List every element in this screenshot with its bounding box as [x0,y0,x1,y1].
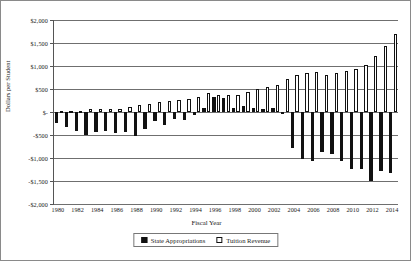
legend-item-tuition-revenue: Tuition Revenue [216,237,270,244]
bar-state-appropriations-2014 [389,112,392,173]
legend-item-state-appropriations: State Appropriations [141,237,205,244]
y-tick-label--2000: -$2,000 [28,201,48,208]
bar-state-appropriations-1985 [104,112,107,131]
bar-tuition-revenue-1984 [99,109,102,112]
y-tick-label-2000: $2,000 [30,17,48,24]
bar-state-appropriations-2002 [271,108,274,112]
bar-state-appropriations-1989 [143,112,146,129]
bar-tuition-revenue-2000 [256,89,259,112]
x-tick-label-1988: 1988 [130,206,143,213]
bar-tuition-revenue-2014 [394,34,397,112]
x-tick-label-1984: 1984 [91,206,104,213]
bar-tuition-revenue-1993 [187,99,190,112]
y-tick-label--500: -$500 [33,132,48,139]
y-tick-label-1500: $1,500 [30,40,48,47]
bar-state-appropriations-2011 [360,112,363,169]
y-tick-label-500: $500 [35,86,48,93]
x-axis-ticks: 1980198219841986198819901992199419961998… [53,206,397,218]
bar-state-appropriations-1986 [114,112,117,133]
x-tick-label-2000: 2000 [248,206,261,213]
bar-state-appropriations-2010 [350,112,353,169]
bar-state-appropriations-1999 [242,106,245,112]
x-tick-label-1994: 1994 [189,206,202,213]
bar-state-appropriations-1993 [183,112,186,120]
x-tick-label-2008: 2008 [327,206,340,213]
bar-tuition-revenue-1996 [217,95,220,112]
x-tick-label-2014: 2014 [386,206,399,213]
bar-tuition-revenue-2010 [354,69,357,112]
bar-state-appropriations-1990 [153,112,156,121]
x-tick-label-1990: 1990 [150,206,163,213]
bar-tuition-revenue-2005 [305,73,308,112]
bar-tuition-revenue-1991 [168,101,171,112]
y-tick--2000 [50,204,54,205]
bar-tuition-revenue-1987 [128,107,131,112]
bars-layer [54,20,398,204]
legend-swatch-state-appropriations [141,237,147,243]
bar-state-appropriations-2000 [252,108,255,112]
bar-state-appropriations-1981 [65,112,68,127]
bar-tuition-revenue-2007 [325,75,328,112]
bar-tuition-revenue-2003 [286,79,289,112]
bar-state-appropriations-2012 [369,112,372,181]
x-tick-label-1992: 1992 [170,206,183,213]
legend-label-state-appropriations: State Appropriations [151,237,205,244]
bar-state-appropriations-1998 [232,108,235,112]
y-tick-label--1000: -$1,000 [28,155,48,162]
bar-tuition-revenue-1990 [158,102,161,112]
bar-state-appropriations-2009 [340,112,343,161]
y-axis-title: Dollars per Student [4,61,11,112]
bar-tuition-revenue-1998 [236,95,239,112]
x-tick-label-1998: 1998 [229,206,242,213]
bar-tuition-revenue-1995 [207,93,210,112]
bar-state-appropriations-2004 [291,112,294,148]
bar-tuition-revenue-2002 [276,85,279,112]
bar-state-appropriations-1987 [124,112,127,132]
bar-state-appropriations-2001 [261,109,264,112]
bar-tuition-revenue-2001 [266,87,269,112]
x-tick-label-2004: 2004 [288,206,301,213]
bar-state-appropriations-1992 [173,112,176,119]
bar-tuition-revenue-1989 [148,104,151,112]
chart-figure: Dollars per Student $2,000$1,500$1,000$5… [0,0,411,261]
bar-state-appropriations-1983 [84,112,87,135]
bar-tuition-revenue-1994 [197,97,200,112]
bar-tuition-revenue-1983 [89,109,92,112]
legend-swatch-tuition-revenue [216,237,222,243]
bar-tuition-revenue-1982 [79,111,82,113]
bar-state-appropriations-2013 [379,112,382,171]
bar-tuition-revenue-2004 [295,75,298,112]
bar-tuition-revenue-1999 [246,92,249,112]
y-tick-label--1500: -$1,500 [28,178,48,185]
bar-tuition-revenue-2006 [315,72,318,112]
x-tick-label-2006: 2006 [307,206,320,213]
bar-state-appropriations-1982 [75,112,78,131]
bar-tuition-revenue-2009 [345,71,348,112]
bar-state-appropriations-1988 [134,112,137,136]
bar-tuition-revenue-2008 [335,73,338,112]
bar-tuition-revenue-1992 [177,100,180,112]
bar-state-appropriations-2007 [320,112,323,152]
plot-area: $2,000$1,500$1,000$500$--$500-$1,000-$1,… [53,20,397,204]
x-tick-label-1986: 1986 [111,206,124,213]
bar-state-appropriations-1991 [163,112,166,125]
bar-state-appropriations-2003 [281,112,284,114]
bar-state-appropriations-2005 [301,112,304,159]
x-tick-label-2002: 2002 [268,206,281,213]
bar-tuition-revenue-2012 [374,56,377,112]
bar-state-appropriations-2006 [311,112,314,161]
bar-tuition-revenue-1986 [118,109,121,112]
legend-label-tuition-revenue: Tuition Revenue [226,237,270,244]
y-tick-label-0: $- [43,109,48,116]
x-tick-label-1982: 1982 [71,206,84,213]
bar-state-appropriations-1980 [55,112,58,123]
bar-state-appropriations-1994 [193,112,196,115]
bar-state-appropriations-1997 [222,98,225,112]
bar-state-appropriations-2008 [330,112,333,154]
x-tick-label-2012: 2012 [366,206,379,213]
bar-tuition-revenue-1997 [227,95,230,112]
x-tick-label-1996: 1996 [209,206,222,213]
bar-state-appropriations-1996 [212,97,215,112]
y-tick-label-1000: $1,000 [30,63,48,70]
x-axis-title: Fiscal Year [1,219,411,226]
